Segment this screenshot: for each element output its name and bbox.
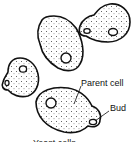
bud-label: Bud xyxy=(110,103,126,113)
figure-caption: Yeast cells xyxy=(33,138,76,142)
yeast-diagram: Parent cell Bud Yeast cells xyxy=(0,0,133,142)
yeast-cell-bottom xyxy=(36,88,101,133)
vacuole xyxy=(61,53,71,63)
yeast-cell-top-center xyxy=(38,16,83,71)
vacuole xyxy=(109,29,118,36)
vacuole xyxy=(46,98,56,108)
bud-vacuole xyxy=(5,80,9,85)
bud-vacuole xyxy=(84,29,90,34)
parent-cell-label: Parent cell xyxy=(81,78,124,88)
yeast-cell-top-right xyxy=(79,4,130,42)
yeast-cell-left xyxy=(2,58,38,97)
vacuole xyxy=(19,66,26,72)
